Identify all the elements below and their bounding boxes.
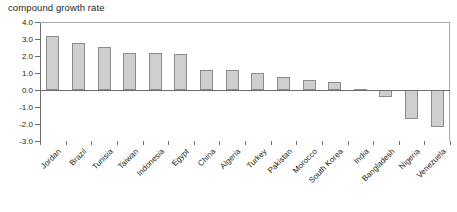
- bar: [149, 53, 162, 90]
- y-axis-tick-label: -2.0: [7, 120, 33, 129]
- bar: [379, 90, 392, 97]
- x-axis-label: Brazil: [68, 147, 89, 168]
- x-axis-label: Pakistan: [266, 147, 294, 175]
- bar: [200, 70, 213, 90]
- y-axis-tick-label: -1.0: [7, 103, 33, 112]
- bar: [303, 80, 316, 90]
- compound-growth-rate-chart: compound growth rate 4.03.02.01.00.0-1.0…: [0, 0, 457, 212]
- bar: [98, 47, 111, 90]
- x-axis-label: Tunisia: [90, 147, 114, 171]
- y-axis-tick-label: 4.0: [7, 18, 33, 27]
- bar: [328, 82, 341, 90]
- x-axis-tick-mark: [296, 141, 297, 145]
- x-axis-tick-mark: [143, 141, 144, 145]
- x-axis-tick-mark: [194, 141, 195, 145]
- bar: [277, 77, 290, 90]
- x-axis-label: Turkey: [245, 147, 268, 170]
- x-axis-label: China: [196, 147, 217, 168]
- x-axis-tick-mark: [168, 141, 169, 145]
- bar: [251, 73, 264, 90]
- x-axis-label: India: [352, 147, 371, 166]
- bar: [72, 43, 85, 90]
- bar: [405, 90, 418, 119]
- y-axis-labels: 4.03.02.01.00.0-1.0-2.0-3.0: [0, 0, 33, 212]
- x-axis-tick-mark: [117, 141, 118, 145]
- x-axis-tick-mark: [245, 141, 246, 145]
- zero-baseline: [40, 90, 450, 91]
- y-axis-tick-label: 2.0: [7, 52, 33, 61]
- x-axis-tick-mark: [66, 141, 67, 145]
- x-axis-tick-mark: [348, 141, 349, 145]
- x-axis-label: Egypt: [170, 147, 191, 168]
- x-axis-tick-mark: [40, 141, 41, 145]
- x-axis-tick-mark: [271, 141, 272, 145]
- x-axis-tick-mark: [322, 141, 323, 145]
- bar: [174, 54, 187, 90]
- x-axis-label: Nigeria: [398, 147, 422, 171]
- x-axis-label: Jordan: [40, 147, 64, 171]
- x-axis-tick-mark: [424, 141, 425, 145]
- plot-area: [40, 22, 450, 141]
- x-axis-label: Algeria: [219, 147, 243, 171]
- x-axis-label: Taiwan: [116, 147, 140, 171]
- bar: [123, 53, 136, 90]
- x-axis-tick-mark: [450, 141, 451, 145]
- y-axis-tick-label: 0.0: [7, 86, 33, 95]
- x-axis-tick-mark: [373, 141, 374, 145]
- bar: [226, 70, 239, 90]
- bar: [431, 90, 444, 127]
- y-axis-tick-label: 1.0: [7, 69, 33, 78]
- x-axis-tick-mark: [91, 141, 92, 145]
- y-axis-tick-label: 3.0: [7, 35, 33, 44]
- x-axis-tick-mark: [399, 141, 400, 145]
- bar: [46, 36, 59, 90]
- x-axis-tick-mark: [219, 141, 220, 145]
- y-axis-tick-label: -3.0: [7, 137, 33, 146]
